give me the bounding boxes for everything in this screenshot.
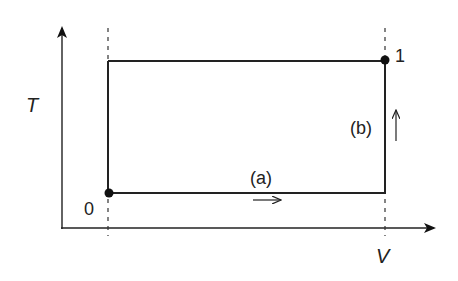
- point-0-label: 0: [84, 199, 94, 219]
- point-1-label: 1: [395, 46, 405, 66]
- process-rectangle: [108, 61, 386, 193]
- path-a-label: (a): [250, 168, 272, 188]
- path-b-label: (b): [350, 118, 372, 138]
- state-point-1: [381, 56, 390, 65]
- state-point-0: [105, 189, 114, 198]
- y-axis-label: T: [26, 94, 40, 116]
- tv-diagram: T V 0 1 (a) (b): [0, 0, 458, 281]
- x-axis-label: V: [376, 245, 391, 267]
